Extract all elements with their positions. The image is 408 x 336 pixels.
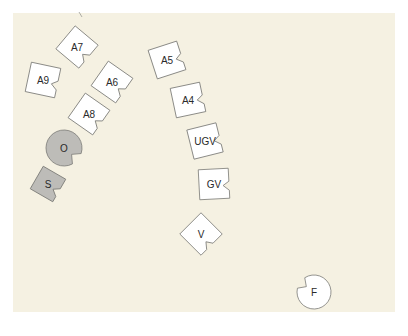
tile-label: A5 xyxy=(161,55,174,66)
tile-label: A8 xyxy=(83,109,96,120)
tile-label: F xyxy=(311,287,317,298)
tile-label: S xyxy=(45,179,52,190)
tile-label: A6 xyxy=(106,77,119,88)
tile-label: GV xyxy=(207,179,222,190)
tile-label: UGV xyxy=(194,136,216,147)
stray-mark xyxy=(79,12,82,17)
tile-label: O xyxy=(60,143,68,154)
tile-label: V xyxy=(198,229,205,240)
tile-label: A7 xyxy=(71,42,84,53)
tile-board: A7A9A6A8A5A4UGVGVVSOF xyxy=(0,0,408,336)
tile-label: A4 xyxy=(182,95,195,106)
tile-label: A9 xyxy=(37,75,50,86)
